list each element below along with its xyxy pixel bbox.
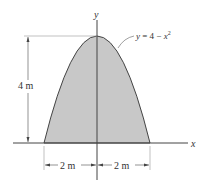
arrow-right-icon	[144, 164, 149, 167]
right-width-label: 2 m	[114, 160, 130, 171]
arrow-left-icon	[45, 164, 50, 167]
x-axis-label: x	[190, 138, 196, 149]
height-dimension-label: 4 m	[18, 80, 34, 91]
arrow-right-icon	[91, 164, 96, 167]
parabola-diagram: x y y = 4 − x2 4 m 2 m 2 m	[0, 0, 204, 189]
arrow-up-icon	[27, 37, 30, 42]
y-axis-label: y	[93, 9, 99, 20]
left-width-label: 2 m	[60, 160, 76, 171]
curve-equation-label: y = 4 − x2	[135, 30, 171, 41]
arrow-down-icon	[27, 137, 30, 142]
curve-leader-line	[118, 36, 134, 48]
arrow-left-icon	[98, 164, 103, 167]
